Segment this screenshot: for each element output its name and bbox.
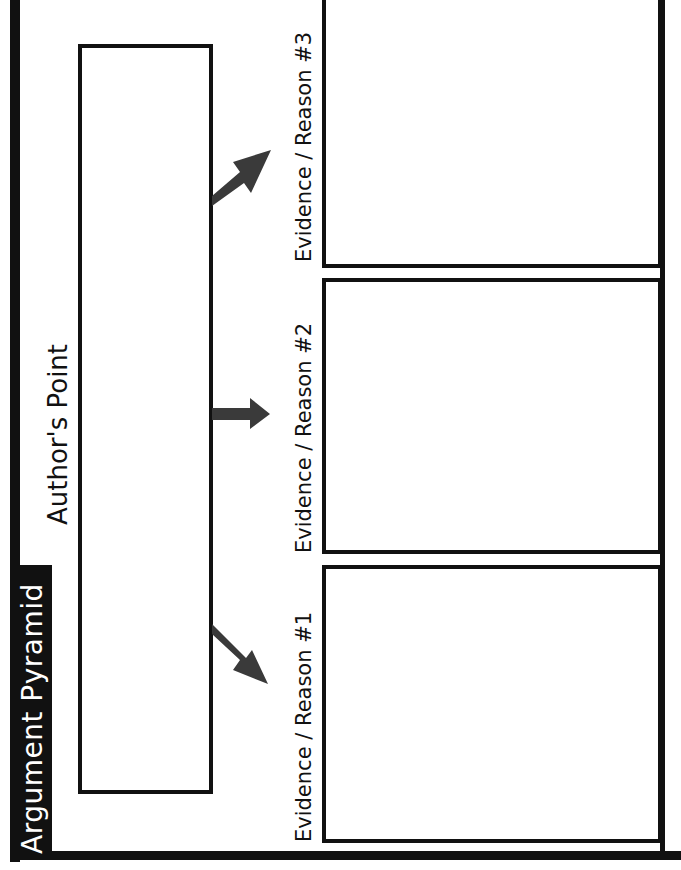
arrow-right-icon bbox=[212, 398, 270, 429]
arrows-layer bbox=[0, 0, 681, 870]
arrow-up-right-icon bbox=[212, 150, 271, 206]
arrow-down-right-icon bbox=[212, 624, 268, 684]
